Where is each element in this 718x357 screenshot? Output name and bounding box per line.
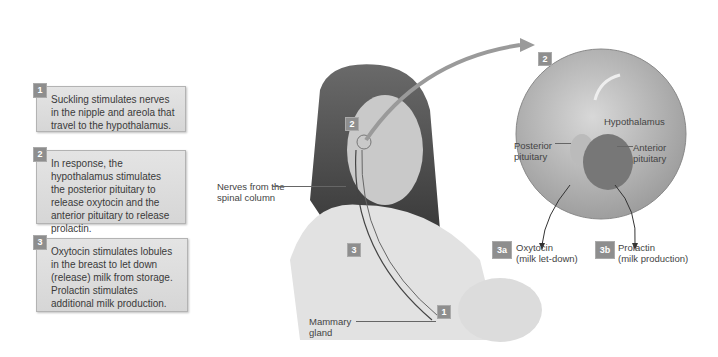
inset-badge: 2 [538, 52, 552, 66]
anterior-pituitary-label: Anterior pituitary [633, 142, 683, 164]
output-prolactin-effect: (milk production) [618, 253, 688, 264]
illustration [0, 0, 718, 357]
output-badge-3b: 3b [595, 241, 615, 259]
woman-face [347, 95, 423, 205]
mammary-label: Mammary gland [309, 316, 355, 338]
anterior-pituitary-shape [583, 134, 633, 190]
nerve-badge: 3 [347, 243, 361, 257]
output-oxytocin-hormone: Oxytocin [516, 242, 578, 253]
output-prolactin: Prolactin (milk production) [618, 242, 688, 264]
head-badge: 2 [345, 117, 359, 131]
nerves-label: Nerves from the spinal column [217, 181, 297, 203]
output-oxytocin-effect: (milk let-down) [516, 253, 578, 264]
output-prolactin-hormone: Prolactin [618, 242, 688, 253]
breast-badge: 1 [437, 305, 451, 319]
baby-head [458, 278, 542, 342]
output-oxytocin: Oxytocin (milk let-down) [516, 242, 578, 264]
hypothalamus-label: Hypothalamus [604, 116, 665, 127]
output-badge-3a: 3a [492, 241, 512, 259]
inset-circle [516, 49, 686, 219]
